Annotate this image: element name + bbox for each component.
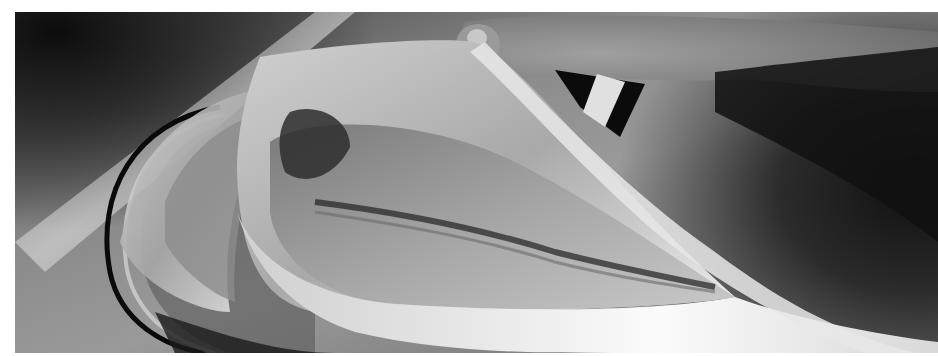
photo <box>15 12 938 353</box>
photo-scene <box>15 12 938 353</box>
